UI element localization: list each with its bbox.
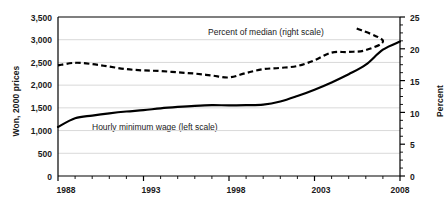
- series-line-percent-of-median: [58, 28, 383, 78]
- plot-frame: [58, 17, 400, 176]
- x-axis-ticks: [58, 176, 400, 181]
- gridlines: [58, 40, 400, 154]
- series-line-hourly-minimum-wage: [58, 42, 400, 127]
